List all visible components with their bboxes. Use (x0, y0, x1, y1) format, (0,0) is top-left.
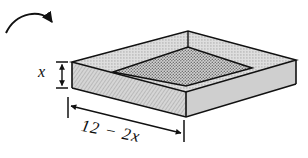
vertical-dimension-arrow-icon (56, 62, 68, 88)
box-solid (72, 31, 296, 117)
figure-container: x 12 − 2x (0, 0, 308, 158)
height-dimension-label: x (38, 63, 45, 81)
curved-arrow-icon (6, 14, 52, 33)
open-top-box-figure (0, 0, 308, 158)
